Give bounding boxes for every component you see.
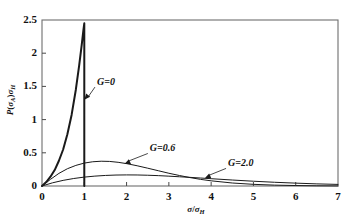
x-tick-label: 0 [39,190,45,202]
figure-container: G=0G=0.6G=2.0 0123456700.511.522.5 σ/σH … [0,0,350,222]
y-tick-label: 2.5 [23,13,37,25]
chart-svg: G=0G=0.6G=2.0 0123456700.511.522.5 σ/σH … [0,0,350,222]
annotation-label: G=0.6 [150,142,175,153]
x-tick-label: 1 [82,190,88,202]
y-tick-label: 2 [32,46,38,58]
x-axis-title: σ/σH [187,204,205,215]
tick-labels: 0123456700.511.522.5 [23,13,341,202]
x-tick-label: 3 [166,190,172,202]
x-tick-label: 7 [335,190,341,202]
x-tick-label: 4 [208,190,214,202]
plot-frame [42,20,338,186]
y-axis-title: P(σA)σH [5,84,16,116]
axis-ticks [42,53,296,186]
annotation-label: G=2.0 [228,157,253,168]
x-tick-label: 2 [124,190,130,202]
y-tick-label: 0 [32,179,38,191]
x-tick-label: 6 [293,190,299,202]
curve-G-2-0 [42,175,338,186]
data-curves [42,23,338,186]
y-tick-label: 0.5 [23,146,37,158]
curve-G-0-6 [42,161,338,186]
curve-G-0 [42,23,84,186]
annotation-label: G=0 [97,76,115,87]
curve-annotations: G=0G=0.6G=2.0 [84,76,253,178]
x-tick-label: 5 [251,190,257,202]
y-tick-label: 1 [32,113,38,125]
y-tick-label: 1.5 [23,79,37,91]
